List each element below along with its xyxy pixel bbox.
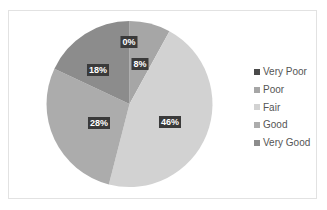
legend-item-very-poor: Very Poor <box>254 63 310 81</box>
legend-item-good: Good <box>254 116 310 134</box>
legend-label: Poor <box>263 84 284 95</box>
legend-label: Good <box>263 119 287 130</box>
data-label-very-good: 18% <box>87 64 109 76</box>
legend-label: Very Poor <box>263 66 307 77</box>
legend-swatch-icon <box>254 69 260 75</box>
legend-item-very-good: Very Good <box>254 134 310 152</box>
data-label-poor: 8% <box>131 58 148 70</box>
data-label-fair: 46% <box>159 116 181 128</box>
legend-item-poor: Poor <box>254 81 310 99</box>
data-label-very-poor: 0% <box>120 36 137 48</box>
legend-swatch-icon <box>254 122 260 128</box>
legend-item-fair: Fair <box>254 98 310 116</box>
legend-swatch-icon <box>254 87 260 93</box>
legend-label: Fair <box>263 102 280 113</box>
data-label-good: 28% <box>88 117 110 129</box>
legend-swatch-icon <box>254 140 260 146</box>
legend: Very Poor Poor Fair Good Very Good <box>254 63 310 151</box>
legend-label: Very Good <box>263 137 310 148</box>
legend-swatch-icon <box>254 104 260 110</box>
